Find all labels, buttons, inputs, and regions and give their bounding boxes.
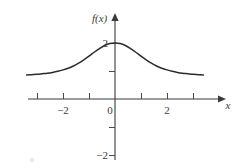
y-tick-label-pos2: 2 [103, 37, 109, 49]
x-tick-label-neg2: −2 [57, 104, 69, 116]
x-tick-label-pos2: 2 [164, 104, 170, 116]
x-tick-label-zero: 0 [107, 104, 113, 116]
y-tick-label-neg2: −2 [96, 149, 108, 161]
x-axis-title: x [225, 99, 231, 111]
plot-labels: f(x) x −2 0 2 2 −2 [0, 0, 237, 167]
y-axis-title: f(x) [92, 12, 108, 25]
graph-figure: f(x) x −2 0 2 2 −2 [0, 0, 237, 167]
